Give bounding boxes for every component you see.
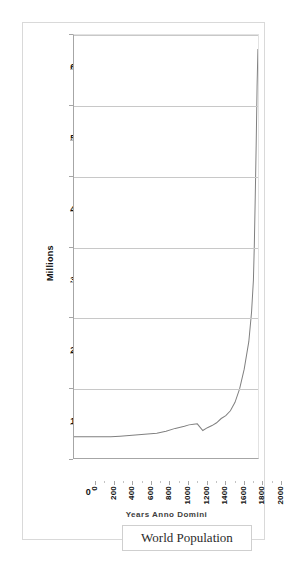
x-axis-title: Years Anno Domini bbox=[45, 510, 285, 519]
y-tick-mark bbox=[69, 34, 73, 35]
y-tick-mark bbox=[69, 317, 73, 318]
y-tick-mark bbox=[69, 105, 73, 106]
x-tick-mark-minor bbox=[235, 481, 236, 483]
y-tick-mark-minor bbox=[70, 211, 73, 212]
x-tick-mark-minor bbox=[253, 481, 254, 483]
x-tick-label: 1400 bbox=[221, 486, 229, 505]
x-tick-label: 1800 bbox=[258, 486, 266, 505]
x-tick-mark bbox=[281, 481, 282, 485]
x-tick-mark-minor bbox=[104, 481, 105, 483]
y-tick-mark-minor bbox=[70, 353, 73, 354]
x-tick-label: 1200 bbox=[203, 486, 211, 505]
x-tick-mark-minor bbox=[123, 481, 124, 483]
gridline bbox=[74, 177, 258, 178]
gridline bbox=[74, 106, 258, 107]
x-tick-label: 1000 bbox=[184, 486, 192, 505]
x-tick-label: 400 bbox=[128, 486, 136, 500]
x-tick-mark bbox=[207, 481, 208, 485]
x-tick-mark bbox=[188, 481, 189, 485]
x-tick-label: 2000 bbox=[277, 486, 285, 505]
x-tick-mark bbox=[132, 481, 133, 485]
y-tick-mark-minor bbox=[70, 282, 73, 283]
chart-page: Millions 0100020003000400050006000 02004… bbox=[0, 0, 285, 564]
x-tick-label: 800 bbox=[165, 486, 173, 500]
x-tick-mark bbox=[95, 481, 96, 485]
x-tick-mark bbox=[169, 481, 170, 485]
x-axis-tick-labels: 0200400600800100012001400160018002000 bbox=[95, 486, 282, 510]
x-tick-mark-minor bbox=[179, 481, 180, 483]
x-tick-mark bbox=[225, 481, 226, 485]
legend-label: World Population bbox=[141, 530, 233, 546]
y-tick-label: 0 bbox=[47, 488, 91, 497]
gridline bbox=[74, 248, 258, 249]
y-tick-mark-minor bbox=[70, 140, 73, 141]
x-tick-label: 200 bbox=[110, 486, 118, 500]
x-tick-mark-minor bbox=[216, 481, 217, 483]
x-tick-label: 600 bbox=[147, 486, 155, 500]
x-tick-mark-minor bbox=[272, 481, 273, 483]
plot-area bbox=[73, 34, 259, 459]
y-tick-mark bbox=[69, 247, 73, 248]
y-tick-mark bbox=[69, 459, 73, 460]
x-tick-label: 0 bbox=[91, 486, 99, 491]
legend-box: World Population bbox=[122, 525, 252, 551]
y-tick-mark bbox=[69, 388, 73, 389]
y-tick-mark-minor bbox=[70, 424, 73, 425]
chart-frame: Millions 0100020003000400050006000 02004… bbox=[22, 22, 265, 540]
gridline bbox=[74, 318, 258, 319]
x-tick-mark bbox=[114, 481, 115, 485]
gridline bbox=[74, 389, 258, 390]
y-tick-mark-minor bbox=[70, 69, 73, 70]
x-tick-label: 1600 bbox=[240, 486, 248, 505]
x-tick-mark-minor bbox=[160, 481, 161, 483]
x-tick-mark-minor bbox=[142, 481, 143, 483]
gridline bbox=[74, 35, 258, 36]
y-tick-mark bbox=[69, 176, 73, 177]
x-tick-mark-minor bbox=[197, 481, 198, 483]
series-line-world-population bbox=[74, 35, 258, 458]
x-tick-mark bbox=[262, 481, 263, 485]
x-tick-mark bbox=[244, 481, 245, 485]
x-tick-mark bbox=[151, 481, 152, 485]
